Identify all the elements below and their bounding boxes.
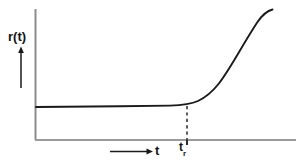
chart-plot-area [0,0,296,162]
arrow-up-icon [18,47,24,89]
y-axis-label: r(t) [8,30,26,43]
arrow-right-icon [110,149,153,155]
x-tick-label-tr: tr [179,141,186,156]
tick-label-tr-subscript: r [183,149,186,158]
x-axis-label: t [155,144,159,157]
chart-figure: r(t) t tr [0,0,296,162]
data-curve-r-of-t [36,10,273,108]
